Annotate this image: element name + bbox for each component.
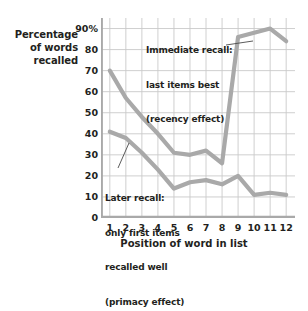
immediate-recall-annotation: Immediate recall: last items best (recen… <box>146 22 233 149</box>
y-tick-label: 60 <box>64 87 98 97</box>
y-tick-label: 70 <box>64 66 98 76</box>
immediate-recall-annotation-line2: last items best <box>146 80 233 92</box>
later-recall-annotation-line4: (primacy effect) <box>105 297 184 309</box>
y-tick-label: 80 <box>64 45 98 55</box>
y-tick-label: 40 <box>64 129 98 139</box>
y-axis-tick-labels: 90%80706050403020100 <box>62 18 98 218</box>
later-recall-annotation-line2: only first items <box>105 228 184 240</box>
y-tick-label: 10 <box>64 192 98 202</box>
y-tick-label: 20 <box>64 171 98 181</box>
y-tick-label: 30 <box>64 150 98 160</box>
immediate-recall-annotation-line1: Immediate recall: <box>146 45 233 57</box>
y-tick-label: 90% <box>64 24 98 34</box>
later-recall-annotation: Later recall: only first items recalled … <box>105 170 184 311</box>
y-tick-label: 50 <box>64 108 98 118</box>
later-recall-annotation-line1: Later recall: <box>105 193 184 205</box>
immediate-recall-annotation-line3: (recency effect) <box>146 114 233 126</box>
later-recall-annotation-line3: recalled well <box>105 262 184 274</box>
x-tick-label: 12 <box>277 222 295 234</box>
y-tick-label: 0 <box>64 213 98 223</box>
